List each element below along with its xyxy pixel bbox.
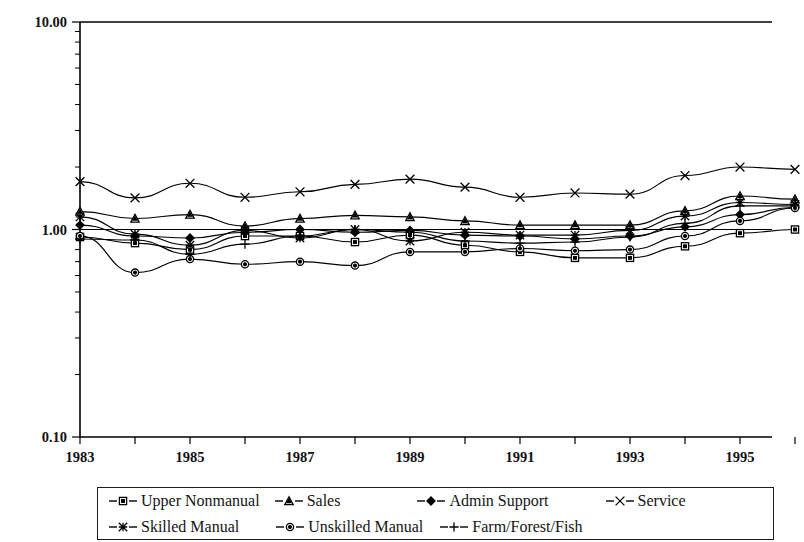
data-point-circle	[626, 246, 633, 253]
legend-label: Farm/Forest/Fish	[472, 519, 582, 535]
series-skilled-manual	[76, 198, 799, 249]
data-point-circle	[461, 248, 468, 255]
data-point-circle	[571, 247, 578, 254]
legend-key	[108, 493, 138, 509]
data-point-triangle	[284, 497, 292, 505]
legend-item-sales[interactable]: Sales	[274, 493, 341, 509]
legend-key	[605, 493, 635, 509]
legend-row: Upper NonmanualSalesAdmin SupportService	[98, 488, 773, 514]
data-point-square	[119, 497, 126, 504]
legend-row: Skilled ManualUnskilled ManualFarm/Fores…	[98, 514, 773, 540]
data-point-star	[186, 241, 194, 249]
data-point-star	[76, 213, 84, 221]
legend-marker-cross	[605, 493, 635, 509]
legend-marker-triangle	[274, 493, 304, 509]
series-sales	[76, 192, 799, 230]
data-point-square	[571, 254, 578, 261]
legend-item-unskilled-manual[interactable]: Unskilled Manual	[275, 519, 423, 535]
legend-key	[275, 519, 305, 535]
chart-figure: 10.001.000.10198319851987198919911993199…	[0, 0, 804, 542]
data-point-circle	[296, 258, 303, 265]
data-point-star	[461, 228, 469, 236]
data-point-circle	[681, 232, 688, 239]
legend-marker-star	[108, 519, 138, 535]
data-point-square	[626, 254, 633, 261]
data-point-diamond	[186, 234, 194, 242]
legend-marker-diamond	[416, 493, 446, 509]
legend-marker-plus	[439, 519, 469, 535]
series-service	[76, 163, 800, 203]
series-upper-nonmanual	[76, 226, 798, 262]
legend-label: Skilled Manual	[141, 519, 239, 535]
legend-marker-circle	[275, 519, 305, 535]
legend-key	[274, 493, 304, 509]
legend-label: Unskilled Manual	[308, 519, 423, 535]
legend-item-skilled-manual[interactable]: Skilled Manual	[108, 519, 239, 535]
legend-key	[439, 519, 469, 535]
data-point-square	[791, 226, 798, 233]
data-point-diamond	[76, 221, 84, 229]
data-point-circle	[736, 217, 743, 224]
legend-label: Upper Nonmanual	[141, 493, 260, 509]
data-point-plus	[450, 522, 459, 531]
legend-item-admin-support[interactable]: Admin Support	[416, 493, 548, 509]
data-point-star	[119, 523, 127, 531]
chart-legend: Upper NonmanualSalesAdmin SupportService…	[97, 487, 774, 540]
data-point-circle	[351, 262, 358, 269]
y-tick-label: 10.00	[34, 14, 67, 30]
series-line	[80, 167, 795, 198]
data-point-diamond	[427, 497, 435, 505]
x-tick-label: 1995	[726, 449, 755, 465]
data-point-cross	[615, 497, 624, 506]
legend-label: Admin Support	[449, 493, 548, 509]
data-point-circle	[287, 523, 294, 530]
legend-item-upper-nonmanual[interactable]: Upper Nonmanual	[108, 493, 260, 509]
line-chart-plot: 10.001.000.10198319851987198919911993199…	[0, 0, 804, 480]
legend-key	[108, 519, 138, 535]
data-point-star	[241, 226, 249, 234]
data-point-circle	[131, 269, 138, 276]
data-point-star	[406, 237, 414, 245]
chart-series-group	[75, 163, 799, 277]
legend-label: Sales	[307, 493, 341, 509]
x-tick-label: 1993	[616, 449, 645, 465]
legend-key	[416, 493, 446, 509]
legend-item-farm-forest-fish[interactable]: Farm/Forest/Fish	[439, 519, 582, 535]
data-point-star	[516, 231, 524, 239]
x-tick-label: 1985	[176, 449, 205, 465]
x-tick-label: 1983	[66, 449, 95, 465]
data-point-square	[736, 230, 743, 237]
legend-marker-square	[108, 493, 138, 509]
data-point-square	[681, 243, 688, 250]
legend-label: Service	[638, 493, 686, 509]
data-point-square	[351, 238, 358, 245]
x-tick-label: 1989	[396, 449, 425, 465]
data-point-circle	[241, 261, 248, 268]
data-point-circle	[406, 248, 413, 255]
legend-item-service[interactable]: Service	[605, 493, 686, 509]
data-point-plus	[240, 240, 249, 249]
y-tick-label: 0.10	[42, 429, 67, 445]
x-tick-label: 1991	[506, 449, 535, 465]
x-tick-label: 1987	[286, 449, 315, 465]
y-tick-label: 1.00	[42, 222, 67, 238]
